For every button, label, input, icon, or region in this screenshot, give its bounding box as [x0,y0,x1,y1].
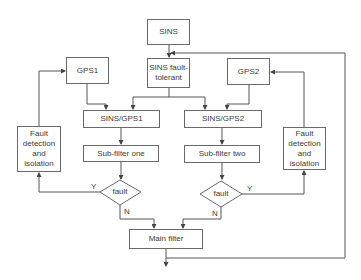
node-subfilter-one: Sub-filter one [83,145,159,162]
node-sins-ft-label: SINS fault- tolerant [149,63,188,83]
node-subfilter-two-label: Sub-filter two [199,149,246,159]
edge-label-right-yes: Y [247,184,252,193]
edge-gps2-to-sins-gps2 [227,85,249,109]
edge-label-left-yes: Y [91,182,96,191]
node-sins-gps1-label: SINS/GPS1 [100,114,142,124]
edge-ft-to-sins-gps2 [169,97,205,109]
node-gps1-label: GPS1 [77,66,98,76]
edge-gps1-to-sins-gps1 [87,84,106,109]
node-gps2-label: GPS2 [238,67,259,77]
node-sins-gps1: SINS/GPS1 [83,110,160,128]
node-fdi-left: Fault detection and isolation [17,126,61,172]
node-main-filter: Main filter [129,229,203,249]
decision-fault-left-label: fault [104,187,136,196]
node-sins-gps2: SINS/GPS2 [184,110,262,128]
node-fdi-right-label: Fault detection and isolation [288,129,320,169]
edge-fdi-right-to-gps2 [271,72,304,127]
node-fdi-right: Fault detection and isolation [283,127,326,170]
node-main-filter-label: Main filter [149,234,184,244]
node-gps2: GPS2 [227,58,270,85]
node-sins-fault-tolerant: SINS fault- tolerant [147,58,190,88]
node-fdi-left-label: Fault detection and isolation [23,129,55,169]
node-gps1: GPS1 [66,57,109,84]
edge-fdi-left-to-gps1 [39,71,65,126]
decision-fault-right-label: fault [205,189,237,198]
node-sins-gps2-label: SINS/GPS2 [202,114,244,124]
edge-ft-to-sins-gps1 [133,88,169,109]
node-subfilter-one-label: Sub-filter one [97,149,145,159]
node-subfilter-two: Sub-filter two [184,145,260,163]
edge-label-left-no: N [124,207,130,216]
node-sins: SINS [147,19,190,45]
flowchart-canvas: SINS SINS fault- tolerant GPS1 GPS2 SINS… [0,0,361,280]
node-sins-label: SINS [159,27,178,37]
edge-label-right-no: N [212,209,218,218]
